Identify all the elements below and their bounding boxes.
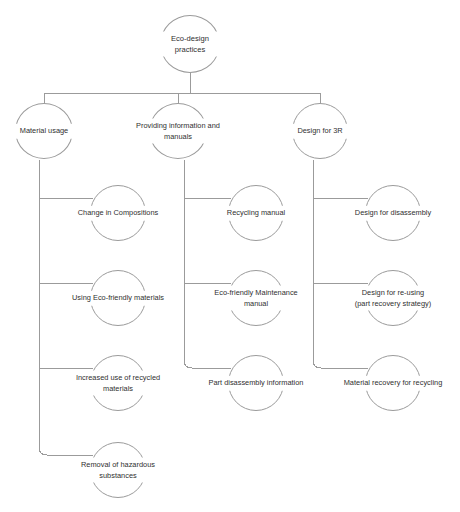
trunk-providing-information-and-manuals	[184, 160, 231, 368]
eco-design-practices-diagram: Material usageChange in CompositionsUsin…	[0, 0, 460, 512]
node-label: Material recovery for recycling	[338, 376, 448, 391]
node-label: Design for 3R	[292, 124, 349, 139]
trunk-design-for-3r	[313, 160, 368, 368]
node-label: Design for disassembly	[348, 206, 438, 221]
node-label: Recycling manual	[220, 206, 292, 221]
trunk-material-usage	[39, 160, 93, 455]
node-label: Part disassembly information	[204, 376, 308, 391]
node-label: Material usage	[13, 124, 75, 139]
node-label: Providing information and manuals	[132, 119, 224, 144]
node-label: Increased use of recycled materials	[71, 371, 166, 396]
connector-lines	[0, 0, 460, 512]
node-label: Change in Compositions	[71, 206, 165, 221]
node-label: Using Eco-friendly materials	[68, 291, 168, 306]
node-label: Eco-friendly Maintenance manual	[209, 286, 304, 311]
node-label: Removal of hazardous substances	[75, 458, 161, 483]
node-label: Design for re-using (part recovery strat…	[347, 286, 439, 311]
node-label: Eco-design practices	[153, 32, 227, 57]
